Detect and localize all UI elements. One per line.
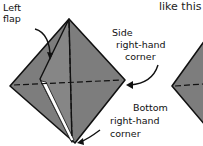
label-bottom-1: Bottom [133,103,168,113]
side-corner-arrowhead [126,81,133,89]
label-left-flap-1: Left [3,3,21,13]
label-bottom-2: right-hand [110,116,160,126]
side-corner-arrow [130,65,158,85]
label-side-2: right-hand [116,40,166,50]
label-left-flap-2: flap [3,14,21,24]
caption-text: like this [159,0,201,13]
label-side-1: Side [112,28,133,38]
label-bottom-3: corner [110,129,141,139]
label-side-3: corner [125,52,156,62]
origami-diagram [0,0,203,146]
next-step-paper [172,40,203,125]
